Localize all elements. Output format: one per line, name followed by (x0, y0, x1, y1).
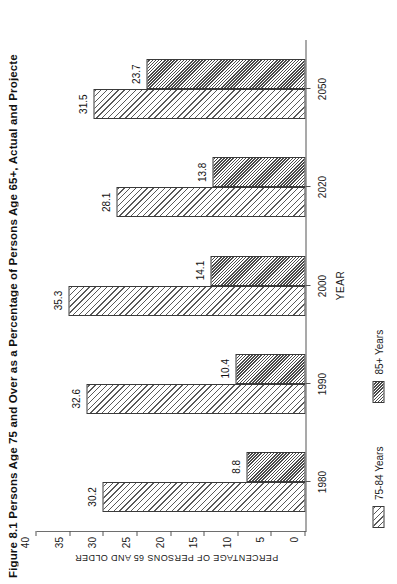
legend-swatch (372, 381, 384, 403)
x-tick-label: 1990 (316, 354, 327, 414)
bar-1990-75-84-years: 32.6 (86, 384, 305, 414)
bar-value-label: 28.1 (100, 193, 111, 212)
x-tick-label: 2020 (316, 157, 327, 217)
bar-groups: 30.28.832.610.435.314.128.113.831.523.7 (36, 40, 305, 531)
x-tick-label: 2050 (316, 59, 327, 119)
plot-wrapper: 0510152025303540 PERCENTAGE OF PERSONS 6… (32, 0, 362, 584)
bar-value-label: 30.2 (86, 487, 97, 506)
bar-1980-85-years: 8.8 (246, 452, 305, 482)
plot-area: 0510152025303540 PERCENTAGE OF PERSONS 6… (36, 40, 306, 532)
legend-item-85-years: 85+ Years (372, 330, 384, 403)
bar-2020-75-84-years: 28.1 (116, 187, 305, 217)
bar-group-1990: 32.610.4 (36, 354, 305, 414)
figure-title: Figure 8.1 Persons Age 75 and Over as a … (6, 2, 18, 578)
y-tick-mark (35, 531, 36, 536)
y-tick-mark (102, 531, 103, 536)
legend-label: 75-84 Years (373, 447, 384, 500)
bar-group-2020: 28.113.8 (36, 157, 305, 217)
y-axis-label: PERCENTAGE OF PERSONS 65 AND OLDER (0, 553, 386, 563)
y-tick-mark (170, 531, 171, 536)
legend-item-75-84-years: 75-84 Years (372, 447, 384, 528)
bar-2050-85-years: 23.7 (146, 59, 305, 89)
x-tick-mark (305, 285, 310, 286)
rotated-figure-canvas: Figure 8.1 Persons Age 75 and Over as a … (0, 0, 397, 584)
bar-group-2050: 31.523.7 (36, 59, 305, 119)
x-tick-mark (305, 481, 310, 482)
y-tick-mark (203, 531, 204, 536)
bar-2000-85-years: 14.1 (210, 256, 305, 286)
x-tick-label: 2000 (316, 256, 327, 316)
bar-1990-85-years: 10.4 (235, 354, 305, 384)
bar-group-2000: 35.314.1 (36, 256, 305, 316)
bar-1980-75-84-years: 30.2 (102, 482, 305, 512)
chart-legend: 75-84 Years85+ Years (372, 330, 384, 528)
bar-2050-75-84-years: 31.5 (93, 89, 305, 119)
bar-group-1980: 30.28.8 (36, 452, 305, 512)
y-tick-mark (237, 531, 238, 536)
x-tick-mark (305, 88, 310, 89)
y-tick-mark (136, 531, 137, 536)
x-tick-mark (305, 186, 310, 187)
y-tick-mark (69, 531, 70, 536)
bar-value-label: 35.3 (52, 291, 63, 310)
bar-value-label: 23.7 (130, 64, 141, 83)
bar-value-label: 32.6 (70, 389, 81, 408)
x-axis-label: YEAR (334, 40, 345, 531)
y-tick-mark (304, 531, 305, 536)
bar-value-label: 13.8 (196, 163, 207, 182)
legend-swatch (372, 506, 384, 528)
bar-value-label: 8.8 (230, 460, 241, 474)
bar-value-label: 31.5 (77, 94, 88, 113)
bar-value-label: 14.1 (194, 261, 205, 280)
x-tick-label: 1980 (316, 452, 327, 512)
bar-2020-85-years: 13.8 (212, 157, 305, 187)
x-tick-mark (305, 383, 310, 384)
bar-2000-75-84-years: 35.3 (68, 286, 305, 316)
y-tick-mark (270, 531, 271, 536)
legend-label: 85+ Years (373, 330, 384, 375)
bar-value-label: 10.4 (219, 359, 230, 378)
